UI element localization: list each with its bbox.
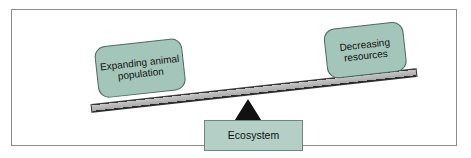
node-expanding-animal-population: Expanding animal population — [94, 37, 187, 98]
node-decreasing-resources: Decreasing resources — [323, 21, 408, 79]
diagram-frame: Expanding animal population Decreasing r… — [11, 9, 457, 146]
node-right-label: Decreasing resources — [325, 34, 405, 65]
node-base-label: Ecosystem — [225, 129, 282, 141]
node-left-label: Expanding animal population — [96, 52, 184, 84]
diagram-canvas: Expanding animal population Decreasing r… — [0, 0, 471, 158]
node-ecosystem: Ecosystem — [204, 120, 303, 151]
